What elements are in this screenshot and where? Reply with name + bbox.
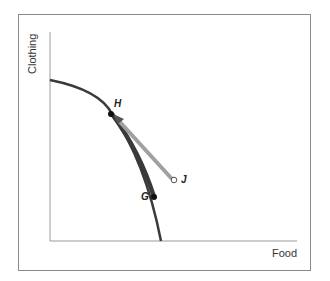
point-j-marker: [171, 177, 177, 183]
point-h-label: H: [114, 98, 121, 109]
x-axis-label: Food: [272, 247, 297, 259]
ppf-highlight-segment: [112, 114, 154, 197]
point-g-marker: [151, 194, 157, 200]
point-g-label: G: [141, 191, 149, 202]
point-h-marker: [108, 111, 114, 117]
ppf-curve: [50, 80, 161, 241]
point-j-label: J: [181, 174, 187, 185]
y-axis-label: Clothing: [26, 34, 38, 74]
ppf-chart: [0, 0, 330, 281]
